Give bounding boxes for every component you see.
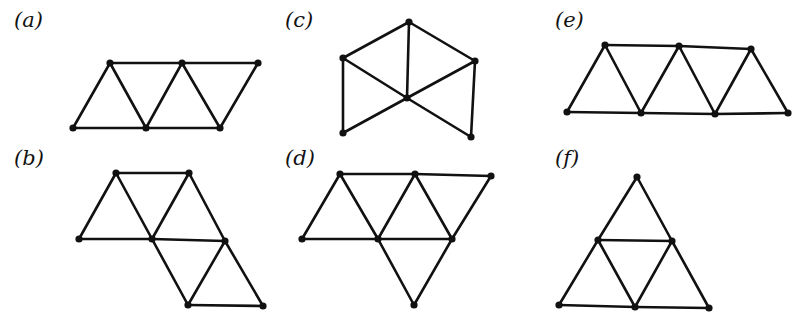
vertex-e-t1: [601, 41, 608, 48]
vertex-f-b1: [555, 301, 562, 308]
edge-d-m3-t3: [452, 176, 491, 239]
graphs-svg: [0, 0, 795, 330]
edge-a-b2-t2: [146, 63, 182, 128]
edge-e-b1-t1: [567, 45, 605, 112]
edge-e-b3-t3: [715, 49, 751, 114]
edge-e-b2-t2: [641, 46, 679, 113]
vertex-f-apex: [633, 173, 640, 180]
graph-e: [563, 41, 791, 117]
vertex-c-left: [339, 54, 346, 61]
vertex-b-m3: [221, 237, 228, 244]
vertex-f-b2: [631, 303, 638, 310]
vertex-a-b3: [216, 124, 223, 131]
panel-label-e: (e): [555, 10, 584, 31]
vertex-d-t2: [411, 170, 418, 177]
edge-e-b2-b3: [641, 113, 715, 114]
edge-f-m2-b3: [672, 241, 709, 308]
vertex-e-b4: [784, 109, 791, 116]
edge-e-t2-b3: [679, 46, 715, 114]
vertex-f-b3: [705, 304, 712, 311]
edge-d-b1-m3: [414, 239, 452, 305]
edge-e-t1-t2: [605, 45, 679, 46]
edge-a-b3-t3: [220, 63, 258, 128]
edge-b-b1-b2: [188, 305, 263, 306]
edge-b-m3-b2: [225, 241, 263, 306]
edge-b-t2-m3: [189, 173, 225, 241]
vertex-f-m2: [668, 237, 675, 244]
edge-d-m1-t1: [302, 174, 340, 239]
vertex-a-t1: [106, 59, 113, 66]
vertex-a-b1: [69, 124, 76, 131]
vertex-a-b2: [142, 124, 149, 131]
panel-label-b: (b): [14, 148, 44, 169]
vertex-c-top: [405, 18, 412, 25]
edge-d-t1-m2: [340, 174, 378, 239]
figure-canvas: (a) (b) (c) (d) (e) (f): [0, 0, 795, 330]
edge-f-m2-b2: [635, 241, 672, 307]
edge-c-right-center: [407, 61, 475, 98]
vertex-d-t3: [487, 172, 494, 179]
edge-b-t1-m2: [116, 173, 152, 239]
edge-b-m2-t2: [152, 173, 189, 239]
vertex-a-t3: [254, 59, 261, 66]
edge-c-right-bottom-right: [471, 61, 475, 137]
graph-b: [75, 169, 266, 309]
edge-e-t3-b4: [751, 49, 788, 113]
graph-d: [298, 170, 494, 308]
edge-c-top-right: [409, 22, 475, 61]
panel-label-c: (c): [285, 10, 313, 31]
edge-c-left-top: [343, 22, 409, 58]
edge-a-b1-t1: [73, 63, 110, 128]
vertex-b-b2: [259, 302, 266, 309]
vertex-e-b1: [563, 108, 570, 115]
vertex-d-t1: [336, 170, 343, 177]
vertex-e-b3: [711, 110, 718, 117]
panel-label-d: (d): [285, 148, 315, 169]
vertex-d-m3: [448, 235, 455, 242]
vertex-d-m2: [374, 235, 381, 242]
edge-d-m2-t2: [378, 174, 415, 239]
vertex-c-right: [471, 57, 478, 64]
vertex-b-m1: [75, 235, 82, 242]
edge-f-m1-m2: [598, 240, 672, 241]
edge-c-left-center: [343, 58, 407, 98]
vertex-e-b2: [637, 109, 644, 116]
vertex-e-t2: [675, 42, 682, 49]
vertex-d-b1: [410, 301, 417, 308]
vertex-c-bottom-right: [467, 133, 474, 140]
graph-a: [69, 59, 261, 131]
edge-e-t1-b2: [605, 45, 641, 113]
edge-c-bottom-left-center: [343, 98, 407, 133]
edge-e-t2-t3: [679, 46, 751, 49]
edge-a-t2-b3: [182, 63, 220, 128]
graph-c: [339, 18, 478, 140]
edge-a-t1-b2: [110, 63, 146, 128]
edge-c-center-bottom-right: [407, 98, 471, 137]
edge-d-m2-b1: [378, 239, 414, 305]
panel-label-f: (f): [555, 148, 579, 169]
edge-f-m1-b1: [559, 240, 598, 305]
edge-e-b1-b2: [567, 112, 641, 113]
edge-c-top-center: [407, 22, 409, 98]
edge-d-t2-t3: [415, 174, 491, 176]
edge-e-b3-b4: [715, 113, 788, 114]
edge-b-m2-b1: [152, 239, 188, 305]
edge-f-m1-b2: [598, 240, 635, 307]
edge-b-m1-t1: [79, 173, 116, 239]
edge-f-b2-b3: [635, 307, 709, 308]
edge-f-apex-m2: [637, 177, 672, 241]
vertex-f-m1: [594, 236, 601, 243]
edge-f-b1-b2: [559, 305, 635, 307]
vertex-b-b1: [184, 301, 191, 308]
edge-d-t2-m3: [415, 174, 452, 239]
edge-b-b1-m3: [188, 241, 225, 305]
panel-label-a: (a): [14, 10, 43, 31]
vertex-b-m2: [148, 235, 155, 242]
vertex-c-center: [403, 94, 410, 101]
vertex-e-t3: [747, 45, 754, 52]
vertex-b-t1: [112, 169, 119, 176]
vertex-a-t2: [178, 59, 185, 66]
vertex-c-bottom-left: [339, 129, 346, 136]
edge-f-apex-m1: [598, 177, 637, 240]
edge-b-m2-m3: [152, 239, 225, 241]
